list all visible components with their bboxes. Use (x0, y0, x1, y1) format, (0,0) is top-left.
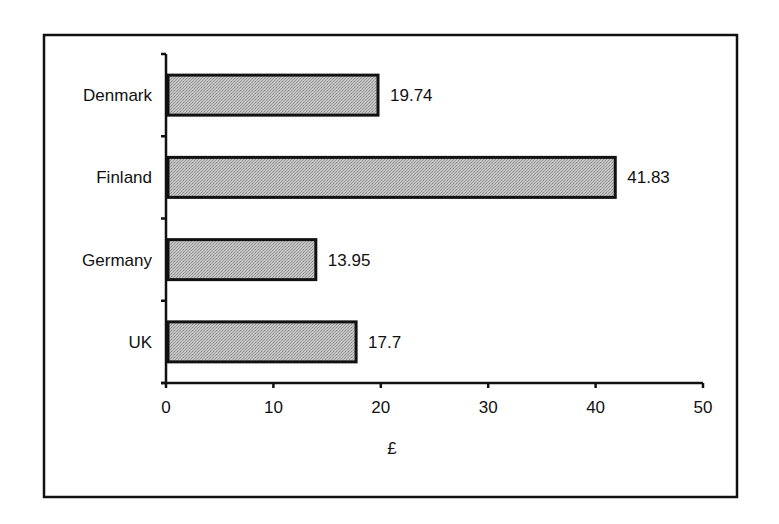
data-label-uk: 17.7 (368, 333, 401, 352)
x-tick-label: 0 (161, 398, 170, 417)
data-label-germany: 13.95 (328, 251, 371, 270)
category-label-denmark: Denmark (83, 86, 152, 105)
category-label-germany: Germany (82, 251, 152, 270)
data-label-finland: 41.83 (627, 168, 670, 187)
x-tick-label: 20 (371, 398, 390, 417)
bar-finland (168, 157, 615, 197)
x-tick-label: 40 (586, 398, 605, 417)
bar-chart: Denmark19.74Finland41.83Germany13.95UK17… (0, 0, 779, 524)
category-label-finland: Finland (96, 168, 152, 187)
category-label-uk: UK (128, 333, 152, 352)
bars-group (168, 75, 615, 362)
x-tick-label: 30 (479, 398, 498, 417)
bar-denmark (168, 75, 378, 115)
x-tick-label: 50 (694, 398, 713, 417)
bar-uk (168, 322, 356, 362)
data-label-denmark: 19.74 (390, 86, 433, 105)
x-tick-label: 10 (264, 398, 283, 417)
bar-germany (168, 240, 316, 280)
x-axis-label: £ (387, 439, 397, 458)
